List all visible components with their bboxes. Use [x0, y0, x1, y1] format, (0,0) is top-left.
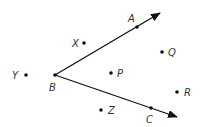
- label-q: Q: [168, 47, 176, 58]
- point-q: [160, 50, 164, 54]
- point-a: [135, 25, 139, 29]
- diagram-canvas: ABCXYPQRZ: [0, 0, 205, 127]
- point-c: [149, 106, 153, 110]
- point-p: [109, 71, 113, 75]
- label-p: P: [117, 68, 124, 79]
- label-b: B: [49, 82, 56, 93]
- point-b: [53, 73, 57, 77]
- ray-ba: [55, 13, 160, 75]
- label-c: C: [146, 114, 153, 125]
- label-a: A: [127, 13, 135, 24]
- angle-diagram: ABCXYPQRZ: [0, 0, 205, 127]
- label-x: X: [71, 38, 80, 49]
- point-z: [99, 108, 103, 112]
- points-group: [24, 25, 179, 112]
- point-y: [24, 73, 28, 77]
- label-r: R: [184, 87, 191, 98]
- labels-group: ABCXYPQRZ: [12, 13, 191, 125]
- label-z: Z: [107, 105, 116, 116]
- point-x: [82, 41, 86, 45]
- ray-bc: [55, 75, 177, 117]
- label-y: Y: [12, 70, 19, 81]
- point-r: [175, 90, 179, 94]
